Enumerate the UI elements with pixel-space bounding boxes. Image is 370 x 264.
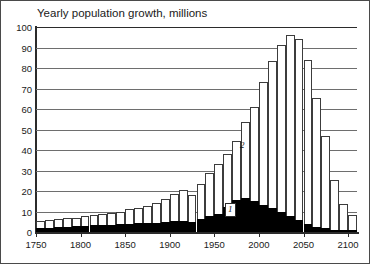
- x-tick-label: 1900: [159, 239, 180, 250]
- x-tick-label: 2050: [293, 239, 314, 250]
- bar-stack: [348, 215, 357, 232]
- bar-segment-lower: [90, 225, 99, 232]
- bar-stack: [152, 203, 161, 232]
- bar-segment-lower: [250, 201, 259, 232]
- bar-segment-upper: [339, 204, 348, 232]
- bar-stack: [107, 213, 116, 232]
- plot-top-border: [36, 27, 357, 28]
- bar-segment-lower: [188, 222, 197, 232]
- bar-segment-lower: [286, 216, 295, 232]
- bar-stack: [250, 107, 259, 232]
- bar-segment-lower: [268, 208, 277, 232]
- bar-segment-upper: [321, 136, 330, 232]
- bar-stack: [304, 60, 313, 232]
- y-tick-label: 70: [21, 83, 32, 94]
- bar-stack: [36, 221, 45, 232]
- bar-stack: [90, 215, 99, 232]
- bar-segment-lower: [179, 221, 188, 232]
- series-annotation-2: 2: [238, 140, 247, 152]
- bar-segment-lower: [98, 225, 107, 232]
- bar-stack: [321, 136, 330, 232]
- bar-segment-upper: [295, 39, 304, 232]
- y-tick-label: 80: [21, 63, 32, 74]
- bar-segment-lower: [205, 216, 214, 232]
- bar-stack: [170, 194, 179, 232]
- bar-stack: [205, 173, 214, 232]
- bar-segment-lower: [214, 214, 223, 232]
- bar-stack: [286, 35, 295, 232]
- bar-segment-lower: [45, 228, 54, 233]
- bar-stack: [330, 180, 339, 232]
- bar-stack: [98, 214, 107, 232]
- bar-stack: [81, 216, 90, 232]
- x-tick: [348, 232, 349, 237]
- bar-stack: [179, 190, 188, 232]
- bar-segment-lower: [161, 222, 170, 232]
- x-tick-label: 1850: [115, 239, 136, 250]
- bar-stack: [259, 82, 268, 232]
- y-tick-label: 50: [21, 124, 32, 135]
- y-tick-label: 20: [21, 186, 32, 197]
- bar-stack: [54, 219, 63, 232]
- x-tick-label: 2100: [338, 239, 359, 250]
- x-tick-label: 1800: [70, 239, 91, 250]
- plot-area: 1 2: [36, 27, 357, 232]
- bar-segment-upper: [277, 45, 286, 232]
- y-tick-label: 90: [21, 42, 32, 53]
- bar-stack: [72, 218, 81, 232]
- y-tick-label: 30: [21, 165, 32, 176]
- x-tick: [81, 232, 82, 237]
- bar-segment-upper: [268, 61, 277, 232]
- bar-stack: [268, 61, 277, 232]
- bar-stack: [63, 218, 72, 232]
- bar-segment-lower: [36, 228, 45, 232]
- bar-stack: [116, 212, 125, 233]
- bar-stack: [143, 206, 152, 232]
- bar-segment-lower: [170, 221, 179, 232]
- y-axis-labels: 0102030405060708090100: [1, 1, 32, 264]
- bar-stack: [232, 141, 241, 232]
- bar-segment-lower: [143, 223, 152, 232]
- bar-segment-lower: [63, 227, 72, 232]
- bar-segment-lower: [348, 230, 357, 232]
- x-tick-label: 1950: [204, 239, 225, 250]
- bar-stack: [214, 164, 223, 232]
- bar-stack: [161, 199, 170, 232]
- bar-segment-lower: [304, 224, 313, 232]
- x-tick: [170, 232, 171, 237]
- gridline: [36, 48, 357, 49]
- bar-stack: [339, 204, 348, 232]
- bar-segment-lower: [321, 228, 330, 232]
- bar-segment-upper: [304, 60, 313, 232]
- bar-segment-lower: [259, 205, 268, 232]
- series-annotation-1: 1: [225, 203, 236, 217]
- bar-stack: [223, 154, 232, 232]
- bar-segment-lower: [125, 224, 134, 232]
- x-tick-label: 1750: [25, 239, 46, 250]
- bar-segment-lower: [134, 223, 143, 232]
- bar-segment-upper: [312, 98, 321, 232]
- y-tick-label: 40: [21, 145, 32, 156]
- bar-segment-lower: [277, 212, 286, 233]
- chart-title: Yearly population growth, millions: [37, 7, 207, 19]
- x-tick: [36, 232, 37, 237]
- bar-segment-upper: [286, 35, 295, 232]
- bar-segment-lower: [72, 226, 81, 232]
- bar-segment-lower: [152, 223, 161, 232]
- bar-segment-lower: [339, 230, 348, 232]
- bar-stack: [241, 122, 250, 232]
- bar-stack: [125, 209, 134, 232]
- bar-segment-lower: [116, 224, 125, 232]
- bar-segment-upper: [330, 180, 339, 232]
- x-tick-label: 2000: [248, 239, 269, 250]
- x-tick: [304, 232, 305, 237]
- bar-stack: [188, 195, 197, 232]
- y-tick-label: 0: [27, 227, 32, 238]
- bar-segment-lower: [312, 227, 321, 232]
- bar-stack: [295, 39, 304, 232]
- bar-segment-lower: [241, 198, 250, 232]
- bar-segment-lower: [107, 225, 116, 232]
- x-tick: [214, 232, 215, 237]
- bar-segment-lower: [295, 220, 304, 232]
- bar-segment-lower: [81, 226, 90, 232]
